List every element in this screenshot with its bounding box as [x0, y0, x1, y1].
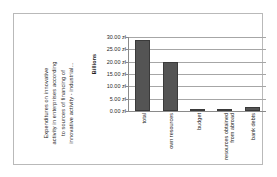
chart-title-line-1: Expenditures on innovative — [42, 30, 50, 176]
bar — [135, 40, 150, 111]
bar — [217, 109, 232, 111]
y-axis-tick-label: 30.00 zł — [98, 34, 126, 40]
x-axis-category-label-line: own resources — [168, 113, 174, 149]
chart-frame: Expenditures on innovative activity in e… — [13, 13, 263, 165]
bar — [245, 107, 260, 111]
bar — [190, 109, 205, 111]
y-axis-tick-label: 20.00 zł — [98, 59, 126, 65]
x-axis-category-label-line: total — [141, 113, 147, 123]
y-axis-tick-label: 0.00 zł — [98, 108, 126, 114]
x-axis-category-labels: totalown resourcesbudgetresources obtain… — [128, 113, 265, 175]
y-axis-tick-label: 10.00 zł — [98, 83, 126, 89]
y-axis-tick-label: 5.00 zł — [98, 96, 126, 102]
plot-area — [128, 37, 266, 112]
x-axis-category-label: bank debts — [250, 113, 277, 123]
chart-screenshot: Expenditures on innovative activity in e… — [0, 0, 277, 177]
chart-title-line-3: to sources of financing of — [59, 30, 67, 176]
y-axis-title-label: Billions — [91, 54, 97, 74]
y-axis-tick-label: 15.00 zł — [98, 71, 126, 77]
x-axis-category-label-line: from abroad — [229, 113, 235, 160]
x-axis-category-label-line: resources obtained — [223, 113, 229, 160]
y-axis-tick-label: 25.00 zł — [98, 46, 126, 52]
x-axis-category-label-line: budget — [196, 113, 202, 130]
bar — [163, 62, 178, 111]
chart-title-line-4: innovative activity - industrial... — [67, 30, 75, 176]
bar-series — [129, 37, 266, 111]
y-axis-tick-labels: 30.00 zł25.00 zł20.00 zł15.00 zł10.00 zł… — [98, 34, 126, 114]
x-axis-category-label-line: bank debts — [250, 113, 256, 140]
chart-title-line-2: activity in enterprises according — [51, 30, 59, 176]
y-axis-tick-mark — [126, 111, 129, 112]
chart-title: Expenditures on innovative activity in e… — [30, 30, 88, 176]
